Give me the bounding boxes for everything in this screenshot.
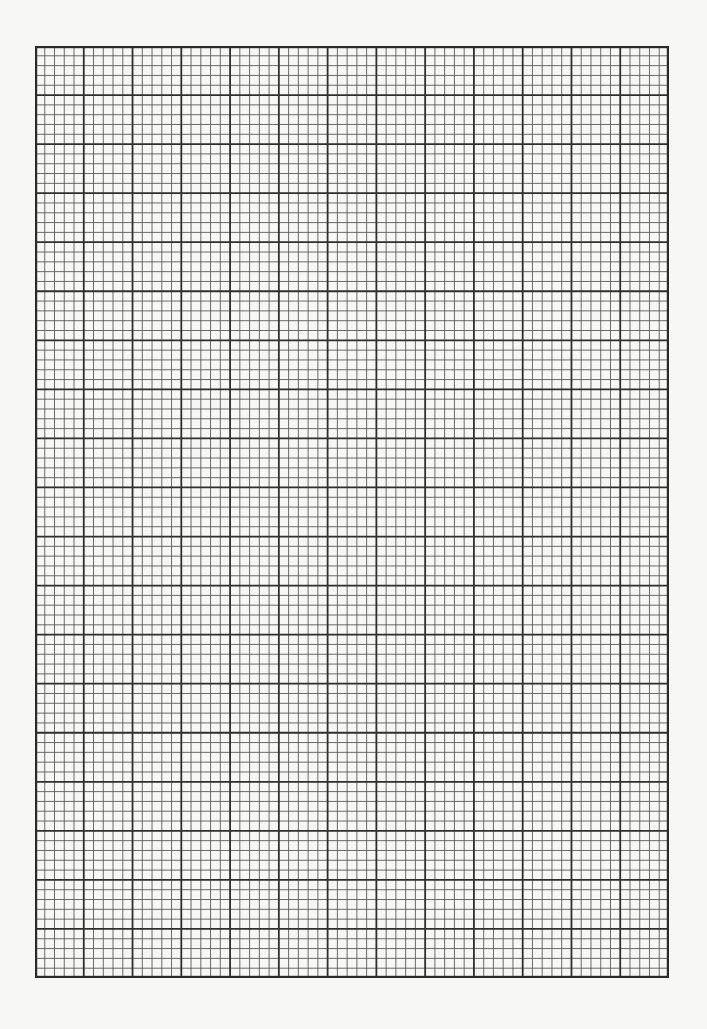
graph-paper-page (0, 0, 707, 1029)
graph-grid (35, 46, 669, 978)
grid-lines (35, 46, 669, 978)
grid-border (36, 47, 668, 977)
